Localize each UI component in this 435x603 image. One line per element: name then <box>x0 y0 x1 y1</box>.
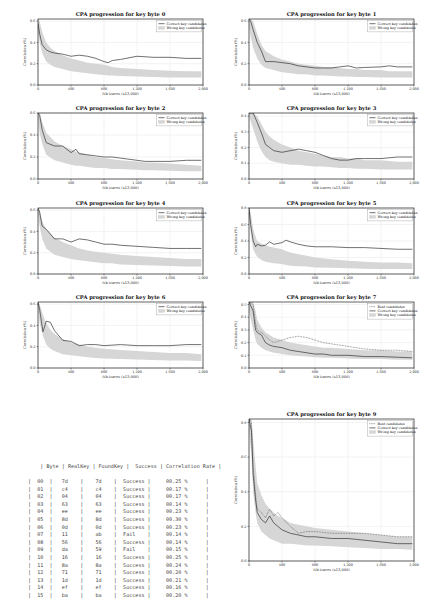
x-tick-label: 1,600 <box>165 276 175 280</box>
x-tick-label: 0 <box>248 370 250 374</box>
table-row: | 15 | ba | ba | Success | 00.20 % | <box>28 592 221 600</box>
x-axis-label: Nb traces (x13,000) <box>102 375 139 379</box>
y-tick-label: 0.6 <box>30 302 35 306</box>
chart-legend: Correct key candidatesWrong key candidat… <box>368 210 418 221</box>
chart-legend: Best candidatesCorrect key candidatesWro… <box>368 304 418 320</box>
chart-byte6: CPA progression for key byte 604008001,2… <box>10 288 214 382</box>
y-tick-label: 0.2 <box>30 345 35 349</box>
x-tick-label: 1,600 <box>376 276 386 280</box>
x-tick-label: 400 <box>68 370 74 374</box>
x-tick-label: 1,600 <box>165 87 175 91</box>
y-tick-label: 0.2 <box>241 341 246 345</box>
legend-swatch-wrong <box>159 121 165 124</box>
chart-byte2: CPA progression for key byte 204008001,2… <box>10 99 214 193</box>
y-tick-label: 0.3 <box>241 328 246 332</box>
x-tick-label: 400 <box>68 181 74 185</box>
x-tick-label: 400 <box>279 276 285 280</box>
x-tick-label: 2,000 <box>198 181 208 185</box>
x-tick-label: 0 <box>248 87 250 91</box>
x-tick-label: 1,200 <box>343 563 353 567</box>
x-tick-label: 1,200 <box>343 181 353 185</box>
chart-byte1: CPA progression for key byte 104008001,2… <box>221 5 425 99</box>
chart-title: CPA progression for key byte 3 <box>287 105 377 112</box>
table-row: | 10 | 16 | 16 | Success | 00.25 % | <box>28 554 221 562</box>
y-axis-label: Correlation (%) <box>234 226 238 255</box>
y-tick-label: 0.4 <box>241 41 246 45</box>
y-tick-label: 0.3 <box>241 130 246 134</box>
x-axis-label: Nb traces (x13,000) <box>102 186 139 190</box>
y-tick-label: 0.2 <box>241 525 246 529</box>
x-tick-label: 1,200 <box>343 276 353 280</box>
legend-label: Wrong key candidates <box>378 215 416 219</box>
legend-swatch-wrong <box>370 216 376 219</box>
x-tick-label: 0 <box>37 276 39 280</box>
y-tick-label: 0.6 <box>30 111 35 115</box>
chart-byte3: CPA progression for key byte 304008001,2… <box>221 99 425 193</box>
legend-swatch-wrong <box>370 314 376 317</box>
legend-label: Wrong key candidates <box>167 26 205 30</box>
legend-swatch-wrong <box>159 216 165 219</box>
x-tick-label: 400 <box>279 563 285 567</box>
table-row: | 05 | 8d | 8d | Success | 00.30 % | <box>28 516 221 524</box>
x-tick-label: 400 <box>279 87 285 91</box>
x-tick-label: 2,000 <box>198 87 208 91</box>
x-tick-label: 1,600 <box>376 563 386 567</box>
y-tick-label: 0.1 <box>241 354 246 358</box>
legend-swatch-wrong <box>159 27 165 30</box>
table-row: | 01 | c4 | c4 | Success | 00.17 % | <box>28 486 221 494</box>
table-row: | 11 | 8a | 8a | Success | 00.24 % | <box>28 562 221 570</box>
y-tick-label: 0.6 <box>30 208 35 212</box>
chart-title: CPA progression for key byte 6 <box>76 294 166 301</box>
x-tick-label: 1,200 <box>132 181 142 185</box>
chart-legend: Correct key candidatesWrong key candidat… <box>157 304 207 315</box>
y-tick-label: 0.2 <box>30 155 35 159</box>
x-axis-label: Nb traces (x13,000) <box>313 281 350 285</box>
x-tick-label: 0 <box>248 181 250 185</box>
chart-legend: Correct key candidatesWrong key candidat… <box>368 21 418 32</box>
x-tick-label: 1,600 <box>376 370 386 374</box>
legend-label: Wrong key candidates <box>378 26 416 30</box>
x-tick-label: 1,600 <box>165 181 175 185</box>
y-tick-label: 0.5 <box>241 303 246 307</box>
x-tick-label: 1,200 <box>132 370 142 374</box>
chart-title: CPA progression for key byte 7 <box>287 294 377 301</box>
x-tick-label: 800 <box>101 370 107 374</box>
table-body: | 00 | 7d | 7d | Success | 00.25 % || 01… <box>28 478 221 600</box>
y-tick-label: 0.4 <box>241 315 246 319</box>
chart-byte7: CPA progression for key byte 704008001,2… <box>221 288 425 382</box>
x-tick-label: 800 <box>101 181 107 185</box>
x-tick-label: 2,000 <box>409 563 419 567</box>
chart-title: CPA progression for key byte 2 <box>76 105 166 112</box>
x-tick-label: 400 <box>68 276 74 280</box>
y-axis-label: Correlation (%) <box>23 320 27 349</box>
y-tick-label: 0.2 <box>241 146 246 150</box>
table-row: | 02 | 04 | 04 | Success | 00.17 % | <box>28 493 221 501</box>
x-tick-label: 2,000 <box>198 276 208 280</box>
x-axis-label: Nb traces (x13,000) <box>102 92 139 96</box>
y-axis-label: Correlation (%) <box>234 475 238 504</box>
table-row: | 08 | 56 | 56 | Success | 00.14 % | <box>28 539 221 547</box>
y-tick-label: 0.0 <box>241 83 246 87</box>
legend-swatch-wrong <box>370 431 376 434</box>
y-tick-label: 0.8 <box>241 206 246 210</box>
x-tick-label: 800 <box>312 563 318 567</box>
y-axis-label: Correlation (%) <box>234 320 238 349</box>
x-tick-label: 400 <box>68 87 74 91</box>
y-tick-label: 0.0 <box>30 366 35 370</box>
x-tick-label: 0 <box>37 181 39 185</box>
x-tick-label: 0 <box>37 87 39 91</box>
chart-title: CPA progression for key byte 5 <box>287 200 377 207</box>
table-row: | 13 | 1d | 1d | Success | 00.21 % | <box>28 577 221 585</box>
x-tick-label: 2,000 <box>198 370 208 374</box>
y-tick-label: 0.2 <box>30 251 35 255</box>
x-tick-label: 1,600 <box>165 370 175 374</box>
y-tick-label: 0.0 <box>30 177 35 181</box>
y-tick-label: 0.4 <box>30 324 35 328</box>
legend-label: Wrong key candidates <box>378 313 416 317</box>
y-axis-label: Correlation (%) <box>234 37 238 66</box>
x-axis-label: Nb traces (x13,000) <box>102 281 139 285</box>
x-tick-label: 1,200 <box>343 87 353 91</box>
y-axis-label: Correlation (%) <box>234 131 238 160</box>
x-tick-label: 2,000 <box>409 370 419 374</box>
chart-legend: Correct key candidatesWrong key candidat… <box>368 115 418 126</box>
